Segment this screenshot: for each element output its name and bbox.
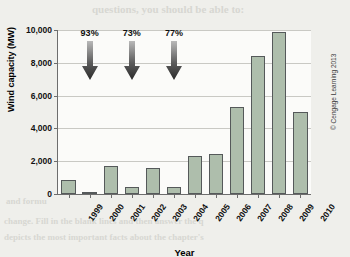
down-arrow-icon-2002 [123,41,140,85]
bar-slot [184,30,205,194]
plot-area: 02,0004,0006,0008,00010,000 199920002001… [57,30,311,195]
copyright-credit: © Cengage Learning 2013 [330,54,337,130]
annotation-label-2002: 73% [123,28,141,38]
ghost-text-line7: and formu [6,196,47,206]
bar-slot [206,30,227,194]
bar-slot [58,30,79,194]
x-axis-tick [90,194,91,198]
bar-2003 [146,168,160,194]
x-axis-tick [258,194,259,198]
bar-1999 [61,180,75,194]
x-axis-label-2002: 2002 [149,202,168,223]
x-axis-label-2001: 2001 [128,202,147,223]
scanned-page-background: questions, you should be able to: ng the… [0,0,350,257]
bar-2008 [251,56,265,194]
down-arrow-icon-2000 [81,41,98,85]
x-axis-tick [153,194,154,198]
y-axis-tick-label: 8,000 [31,58,52,68]
ghost-text-line1: questions, you should be able to: [92,3,244,15]
x-axis-label-2007: 2007 [255,202,274,223]
x-axis-tick [111,194,112,198]
x-axis-label-2000: 2000 [107,202,126,223]
x-axis-label-2004: 2004 [192,202,211,223]
x-axis-tick [237,194,238,198]
ghost-text-line9: depicts the most important facts about t… [4,232,204,242]
x-axis-tick [300,194,301,198]
bar-2001 [104,166,118,194]
x-axis-tick [216,194,217,198]
bar-2010 [293,112,307,194]
annotation-label-2000: 93% [81,28,99,38]
x-axis-label-2008: 2008 [276,202,295,223]
bar-slot [142,30,163,194]
x-axis-label-2005: 2005 [213,202,232,223]
y-axis-title: Wind capacity (MW) [6,27,16,112]
bar-2005 [188,156,202,194]
bar-2002 [125,187,139,194]
y-axis-tick [54,194,58,195]
x-axis-label-2009: 2009 [297,202,316,223]
y-axis-tick-label: 10,000 [26,25,52,35]
bar-2007 [230,107,244,194]
bar-slot [248,30,269,194]
annotation-label-2004: 77% [165,28,183,38]
bar-slot [269,30,290,194]
x-axis-tick [132,194,133,198]
bar-2006 [209,154,223,194]
x-axis-label-1999: 1999 [86,202,105,223]
bar-2009 [272,32,286,194]
y-axis-tick-label: 0 [47,189,52,199]
down-arrow-icon-2004 [165,41,182,85]
x-axis-title: Year [58,247,311,257]
y-axis-tick-label: 6,000 [31,91,52,101]
bar-slot [100,30,121,194]
y-axis-tick-label: 4,000 [31,123,52,133]
x-axis-label-2010: 2010 [318,202,337,223]
y-axis-tick-label: 2,000 [31,156,52,166]
x-axis-label-2006: 2006 [234,202,253,223]
x-axis-tick [279,194,280,198]
bar-slot [290,30,311,194]
x-axis-label-2003: 2003 [170,202,189,223]
bar-slot [227,30,248,194]
x-axis-tick [195,194,196,198]
x-axis-tick [174,194,175,198]
x-axis-tick [69,194,70,198]
